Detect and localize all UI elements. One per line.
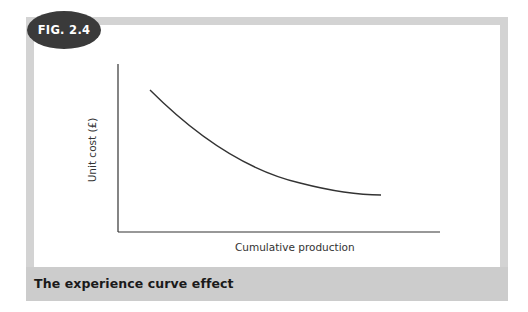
experience-curve-line — [150, 90, 381, 195]
figure-caption: The experience curve effect — [34, 276, 234, 291]
x-axis-label: Cumulative production — [235, 241, 355, 253]
figure-number: FIG. 2.4 — [38, 23, 91, 37]
y-axis-label: Unit cost (£) — [86, 118, 98, 183]
figure-number-badge: FIG. 2.4 — [27, 11, 101, 49]
